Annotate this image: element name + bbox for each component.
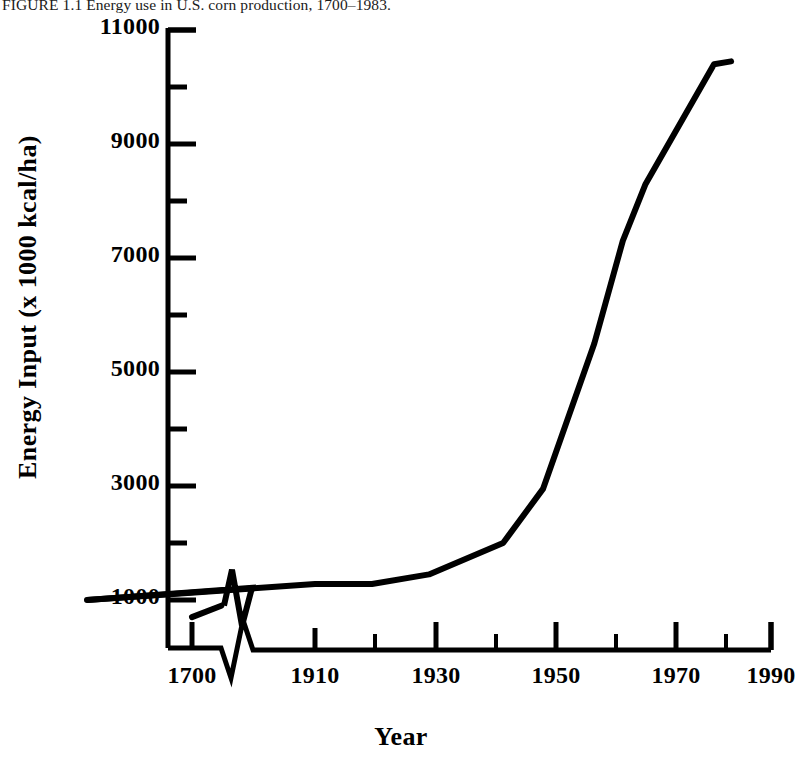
- data-line-pre-break: [192, 606, 221, 617]
- y-minor-ticks: [168, 87, 187, 543]
- x-axis-spine-with-break: [168, 620, 771, 678]
- plot-canvas: [0, 0, 802, 768]
- chart-figure: FIGURE 1.1 Energy use in U.S. corn produ…: [0, 0, 802, 768]
- x-major-ticks: [192, 622, 771, 650]
